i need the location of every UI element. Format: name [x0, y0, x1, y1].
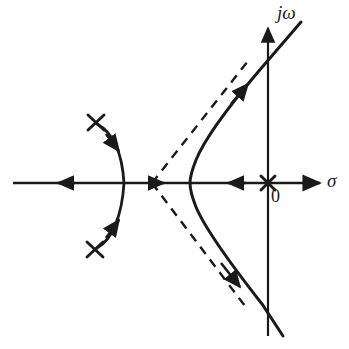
- root-locus-canvas: [0, 0, 349, 349]
- pole-markers-group: [87, 115, 275, 257]
- origin-label: 0: [271, 186, 280, 207]
- pole-marker-upper-complex: [88, 115, 104, 130]
- imaginary-axis-label: jω: [277, 2, 296, 24]
- pole-marker-lower-complex: [87, 242, 103, 257]
- arrow-left-branch-lower: [106, 220, 119, 238]
- right-branch-group: [190, 22, 301, 336]
- right-branch-locus: [190, 22, 301, 336]
- root-locus-figure: jω σ 0: [0, 0, 349, 349]
- asymptotes-group: [152, 61, 248, 310]
- asymptote-upper: [152, 61, 248, 183]
- asymptote-lower: [152, 183, 248, 310]
- real-axis-label: σ: [327, 170, 336, 192]
- left-branch-group: [97, 124, 124, 248]
- left-branch-locus: [97, 124, 124, 248]
- arrow-right-branch-lower: [221, 263, 240, 287]
- arrow-right-branch-upper: [231, 84, 248, 104]
